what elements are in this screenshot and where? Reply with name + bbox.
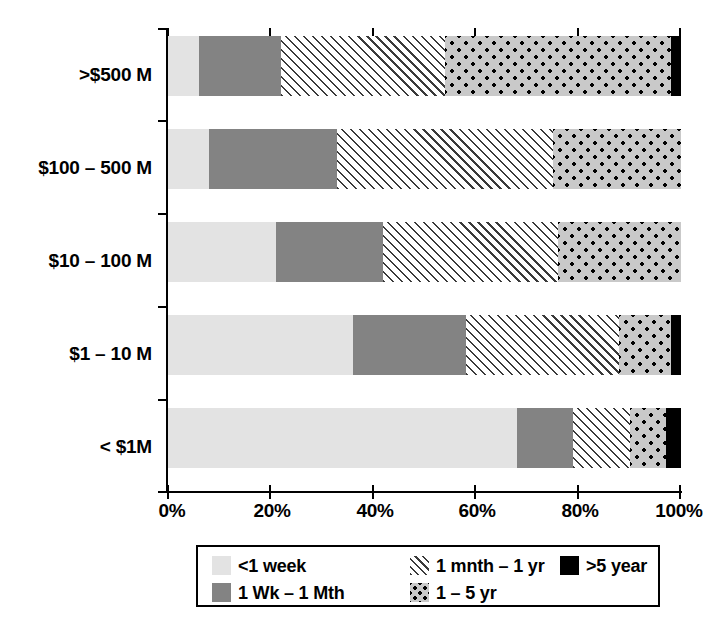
legend-swatch-1mnth-1yr-icon — [410, 556, 429, 575]
bar-segment-1m-1-week — [168, 408, 517, 468]
y-axis-label-500m-plus: >$500 M — [0, 64, 152, 86]
stacked-bar-chart: >$500 M $100 – 500 M $10 – 100 M $1 – 10… — [0, 0, 727, 636]
x-axis-label-0: 0% — [159, 500, 186, 522]
bar-segment-100-500-m-1-week — [168, 129, 209, 189]
bar-segment-1-10-m-1-5-yr — [619, 315, 670, 375]
y-axis-tick — [158, 213, 168, 215]
legend-item-1mnth-1yr: 1 mnth – 1 yr — [410, 556, 544, 575]
bar-500-m — [168, 36, 681, 96]
bar-segment-1m-1-mnth-1-yr — [573, 408, 629, 468]
x-axis-tick-0 — [167, 485, 169, 499]
bar-segment-100-500-m-1-mnth-1-yr — [337, 129, 552, 189]
x-axis-label-60: 60% — [458, 500, 495, 522]
bar-segment-1m-5-year — [666, 408, 681, 468]
legend-label-1mnth-1yr: 1 mnth – 1 yr — [436, 557, 544, 575]
legend-label-under-1-week: <1 week — [238, 557, 306, 575]
legend-swatch-over-5yr-icon — [560, 556, 579, 575]
bar-segment-100-500-m-1-5-yr — [553, 129, 681, 189]
legend-label-over-5yr: >5 year — [586, 557, 647, 575]
bar-segment-500-m-1-wk-1-mth — [199, 36, 281, 96]
bar-1m — [168, 408, 681, 468]
x-axis-label-100: 100% — [655, 500, 702, 522]
bar-100-500-m — [168, 129, 681, 189]
bar-10-100-m — [168, 222, 681, 282]
y-axis-label-10-100m: $10 – 100 M — [0, 250, 152, 272]
bar-1-10-m — [168, 315, 681, 375]
legend-swatch-1-5yr-icon — [410, 583, 429, 602]
legend-item-1-5yr: 1 – 5 yr — [410, 583, 496, 602]
legend-label-1-5yr: 1 – 5 yr — [436, 584, 496, 602]
x-axis-tick-80 — [577, 485, 579, 499]
legend-swatch-1wk-1mth-icon — [212, 583, 231, 602]
legend-item-1wk-1mth: 1 Wk – 1 Mth — [212, 583, 345, 602]
legend-label-1wk-1mth: 1 Wk – 1 Mth — [238, 584, 345, 602]
x-axis-tick-60 — [474, 485, 476, 499]
x-axis-tick-100 — [679, 485, 681, 499]
bar-segment-10-100-m-1-week — [168, 222, 276, 282]
bar-segment-500-m-1-5-yr — [445, 36, 671, 96]
y-axis-label-1-10m: $1 – 10 M — [0, 343, 152, 365]
legend: <1 week 1 Wk – 1 Mth 1 mnth – 1 yr 1 – 5… — [196, 545, 660, 607]
bar-segment-500-m-5-year — [671, 36, 681, 96]
y-axis-tick — [158, 120, 168, 122]
x-axis-label-40: 40% — [356, 500, 393, 522]
bar-segment-1-10-m-5-year — [671, 315, 681, 375]
x-axis-label-80: 80% — [561, 500, 598, 522]
bar-segment-1-10-m-1-wk-1-mth — [353, 315, 466, 375]
bar-segment-500-m-1-mnth-1-yr — [281, 36, 445, 96]
bar-segment-1m-1-5-yr — [630, 408, 666, 468]
y-axis-tick — [158, 399, 168, 401]
bar-segment-10-100-m-1-wk-1-mth — [276, 222, 384, 282]
y-axis-tick — [158, 306, 168, 308]
bar-segment-10-100-m-1-mnth-1-yr — [383, 222, 557, 282]
bar-segment-1-10-m-1-mnth-1-yr — [466, 315, 620, 375]
legend-item-under-1-week: <1 week — [212, 556, 306, 575]
legend-item-over-5yr: >5 year — [560, 556, 647, 575]
y-axis-label-under-1m: < $1M — [0, 436, 152, 458]
x-axis-tick-20 — [269, 485, 271, 499]
x-axis-label-20: 20% — [253, 500, 290, 522]
bar-segment-500-m-1-week — [168, 36, 199, 96]
y-axis-label-100-500m: $100 – 500 M — [0, 157, 152, 179]
bar-segment-100-500-m-1-wk-1-mth — [209, 129, 337, 189]
legend-swatch-under-1-week-icon — [212, 556, 231, 575]
bar-segment-10-100-m-1-5-yr — [558, 222, 681, 282]
bar-segment-1m-1-wk-1-mth — [517, 408, 573, 468]
x-axis-tick-40 — [372, 485, 374, 499]
x-axis-line — [168, 491, 682, 493]
bar-segment-1-10-m-1-week — [168, 315, 353, 375]
